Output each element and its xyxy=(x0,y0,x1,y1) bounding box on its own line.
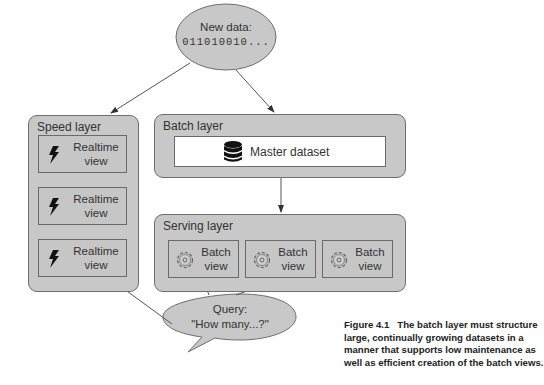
realtime-view-label: Realtime xyxy=(67,192,125,206)
batch-view-label: Batch xyxy=(195,245,237,259)
query-label: Query: "How many...?" xyxy=(170,302,290,332)
database-icon xyxy=(224,141,242,163)
gear-icon xyxy=(174,249,196,271)
realtime-view-label: Realtime xyxy=(67,244,125,258)
realtime-view-sublabel: view xyxy=(67,154,125,168)
figure-caption: Figure 4.1 The batch layer must structur… xyxy=(344,319,544,369)
lightning-icon xyxy=(48,198,60,216)
gear-icon xyxy=(251,249,273,271)
batch-view-3: Batch view xyxy=(322,240,393,278)
query-text: "How many...?" xyxy=(170,317,290,332)
lightning-icon xyxy=(48,250,60,268)
figure-label: Figure 4.1 xyxy=(344,319,389,330)
master-dataset-label: Master dataset xyxy=(250,145,329,159)
gear-icon xyxy=(328,249,350,271)
batch-view-2: Batch view xyxy=(245,240,316,278)
new-data-label: New data: 011010010... xyxy=(176,20,276,50)
batch-view-label: Batch xyxy=(349,245,391,259)
realtime-view-sublabel: view xyxy=(67,206,125,220)
batch-layer-title: Batch layer xyxy=(163,119,223,133)
serving-layer-title: Serving layer xyxy=(163,219,233,233)
realtime-view-sublabel: view xyxy=(67,258,125,272)
query-title: Query: xyxy=(170,302,290,317)
realtime-view-label: Realtime xyxy=(67,140,125,154)
new-data-value: 011010010... xyxy=(176,35,276,50)
lightning-icon xyxy=(48,146,60,164)
master-dataset: Master dataset xyxy=(174,136,386,167)
batch-view-label: Batch xyxy=(272,245,314,259)
new-data-title: New data: xyxy=(176,20,276,35)
realtime-view-2: Realtime view xyxy=(38,187,127,225)
realtime-view-1: Realtime view xyxy=(38,135,127,173)
speed-layer-title: Speed layer xyxy=(37,120,101,134)
batch-view-sublabel: view xyxy=(349,259,391,273)
realtime-view-3: Realtime view xyxy=(38,239,127,277)
batch-view-sublabel: view xyxy=(195,259,237,273)
batch-view-1: Batch view xyxy=(168,240,239,278)
batch-view-sublabel: view xyxy=(272,259,314,273)
